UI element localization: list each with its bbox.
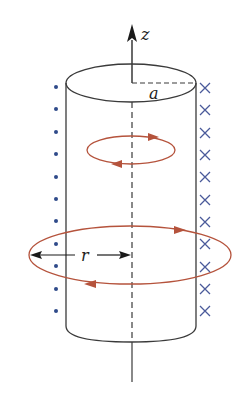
inner-loop-arrow-bottom-icon	[111, 160, 122, 168]
dot-icon	[54, 287, 58, 291]
radius-r-indicator: r	[30, 246, 131, 265]
dot-icon	[54, 85, 58, 89]
cylinder-diagram: z a r	[0, 0, 246, 400]
right-current-crosses	[200, 83, 210, 316]
outer-loop	[29, 226, 231, 288]
cross-icon	[200, 172, 210, 182]
dot-icon	[54, 219, 58, 223]
cross-icon	[200, 150, 210, 160]
outer-loop-arrow-top-icon	[174, 226, 186, 234]
dot-icon	[54, 152, 58, 156]
inner-loop	[87, 133, 175, 168]
cross-icon	[200, 306, 210, 316]
cross-icon	[200, 284, 210, 294]
inner-loop-arrow-top-icon	[148, 133, 159, 141]
dot-icon	[54, 242, 58, 246]
cross-icon	[200, 217, 210, 227]
a-label: a	[149, 84, 159, 103]
cross-icon	[200, 105, 210, 115]
dot-icon	[54, 130, 58, 134]
dot-icon	[54, 107, 58, 111]
cross-icon	[200, 239, 210, 249]
dot-icon	[54, 197, 58, 201]
cross-icon	[200, 262, 210, 272]
cross-icon	[200, 128, 210, 138]
r-label: r	[81, 246, 90, 265]
dot-icon	[54, 264, 58, 268]
dot-icon	[54, 175, 58, 179]
cross-icon	[200, 195, 210, 205]
cross-icon	[200, 83, 210, 93]
dot-icon	[54, 309, 58, 313]
left-current-dots	[54, 85, 58, 313]
cylinder-bottom	[66, 326, 196, 342]
z-axis-arrow-icon	[127, 24, 137, 42]
z-label: z	[140, 25, 150, 44]
